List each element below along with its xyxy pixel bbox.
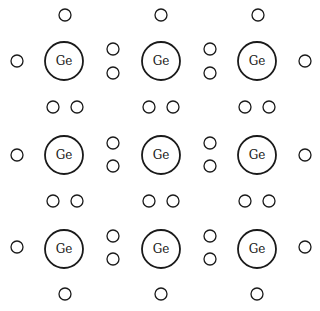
electron-icon: [107, 160, 119, 172]
germanium-atom: Ge: [142, 42, 180, 80]
electron-icon: [204, 67, 216, 79]
electron-icon: [299, 241, 311, 253]
atom-label: Ge: [56, 242, 73, 256]
electron-icon: [204, 160, 216, 172]
electron-icon: [239, 195, 251, 207]
germanium-atom: Ge: [45, 230, 83, 268]
germanium-atom: Ge: [238, 136, 276, 174]
germanium-lattice-diagram: GeGeGeGeGeGeGeGeGe: [0, 0, 320, 311]
atom-label: Ge: [56, 148, 73, 162]
electron-icon: [204, 43, 216, 55]
electron-icon: [107, 230, 119, 242]
atom-label: Ge: [153, 54, 170, 68]
atom-label: Ge: [56, 54, 73, 68]
electron-icon: [71, 101, 83, 113]
atom-label: Ge: [249, 54, 266, 68]
electron-icon: [204, 137, 216, 149]
atom-label: Ge: [249, 148, 266, 162]
electron-icon: [47, 101, 59, 113]
electron-icon: [11, 55, 23, 67]
electron-icon: [59, 288, 71, 300]
electron-icon: [252, 9, 264, 21]
atom-label: Ge: [153, 148, 170, 162]
germanium-atom: Ge: [45, 136, 83, 174]
electron-icon: [107, 43, 119, 55]
atom-label: Ge: [249, 242, 266, 256]
electron-icon: [107, 67, 119, 79]
electron-icon: [263, 101, 275, 113]
germanium-atom: Ge: [238, 42, 276, 80]
electron-icon: [11, 149, 23, 161]
germanium-atom: Ge: [142, 230, 180, 268]
electron-icon: [71, 195, 83, 207]
germanium-atom: Ge: [142, 136, 180, 174]
electron-icon: [204, 230, 216, 242]
electron-icon: [143, 101, 155, 113]
electron-icon: [155, 9, 167, 21]
electron-icon: [167, 195, 179, 207]
electron-icon: [143, 195, 155, 207]
germanium-atom: Ge: [45, 42, 83, 80]
electron-icon: [47, 195, 59, 207]
germanium-atom: Ge: [238, 230, 276, 268]
electron-icon: [263, 195, 275, 207]
electron-icon: [59, 9, 71, 21]
electron-icon: [299, 55, 311, 67]
electron-icon: [239, 101, 251, 113]
electron-icon: [155, 288, 167, 300]
electron-icon: [167, 101, 179, 113]
atom-label: Ge: [153, 242, 170, 256]
electron-icon: [107, 137, 119, 149]
electron-icon: [251, 288, 263, 300]
germanium-atoms: GeGeGeGeGeGeGeGeGe: [45, 42, 276, 268]
electron-icon: [299, 149, 311, 161]
electron-icon: [204, 253, 216, 265]
electron-icon: [11, 241, 23, 253]
electron-icon: [107, 253, 119, 265]
